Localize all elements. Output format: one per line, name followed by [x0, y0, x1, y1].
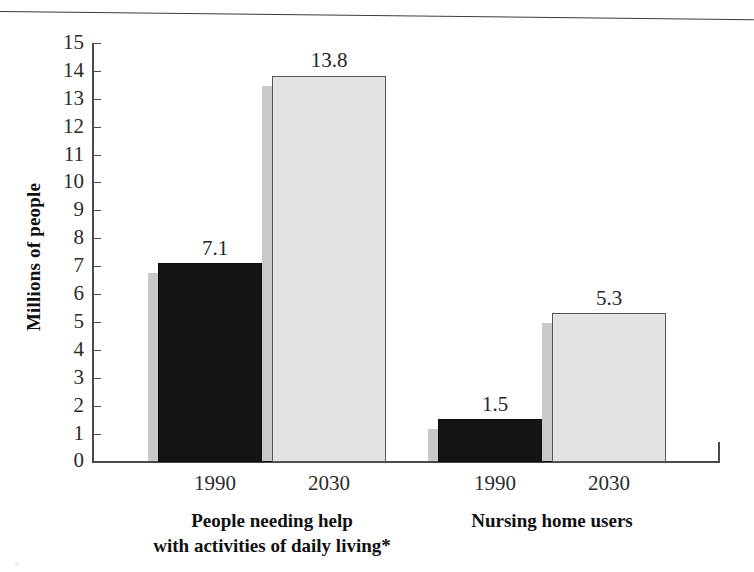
y-tick-1	[92, 434, 101, 435]
group-label-g1-line1: People needing help	[142, 508, 402, 533]
y-tick-label-10: 10	[50, 171, 84, 192]
y-tick-11	[92, 155, 101, 156]
y-tick-14	[92, 71, 101, 72]
y-tick-13	[92, 99, 101, 100]
bar-value-g1-1990: 7.1	[155, 238, 275, 259]
y-tick-label-6: 6	[50, 283, 84, 304]
bar-chart-plot-area: Millions of people 15 14 13 12 11 10 9 8…	[0, 0, 754, 572]
figure-root: Millions of people 15 14 13 12 11 10 9 8…	[0, 0, 754, 572]
y-tick-label-7: 7	[50, 255, 84, 276]
y-tick-6	[92, 294, 101, 295]
x-category-label-g2-1990: 1990	[435, 473, 555, 494]
y-tick-2	[92, 406, 101, 407]
group-label-g1-line2: with activities of daily living*	[142, 533, 402, 558]
group-label-g2-line1: Nursing home users	[432, 508, 672, 533]
x-category-label-g2-2030: 2030	[549, 473, 669, 494]
y-tick-label-11: 11	[50, 144, 84, 165]
y-tick-label-13: 13	[50, 88, 84, 109]
bar-g2-2030-light[interactable]	[552, 313, 666, 462]
y-tick-label-0: 0	[50, 450, 84, 471]
y-tick-4	[92, 350, 101, 351]
y-tick-label-12: 12	[50, 116, 84, 137]
y-axis-title: Millions of people	[23, 157, 45, 357]
x-category-label-g1-1990: 1990	[155, 473, 275, 494]
y-tick-label-9: 9	[50, 199, 84, 220]
y-tick-5	[92, 322, 101, 323]
y-tick-8	[92, 238, 101, 239]
y-tick-label-1: 1	[50, 423, 84, 444]
y-tick-label-4: 4	[50, 339, 84, 360]
bar-value-g1-2030: 13.8	[269, 50, 389, 71]
y-tick-label-14: 14	[50, 60, 84, 81]
y-tick-15	[92, 43, 101, 44]
y-tick-label-3: 3	[50, 367, 84, 388]
bar-g2-1990-dark[interactable]	[438, 419, 552, 462]
y-tick-label-15: 15	[50, 32, 84, 53]
y-tick-label-2: 2	[50, 395, 84, 416]
y-tick-12	[92, 127, 101, 128]
bar-g1-2030-light[interactable]	[272, 76, 386, 462]
y-tick-7	[92, 266, 101, 267]
y-tick-label-5: 5	[50, 311, 84, 332]
bar-g1-1990-dark[interactable]	[158, 263, 272, 462]
x-axis-right-end-tick	[718, 442, 720, 462]
bar-value-g2-2030: 5.3	[549, 288, 669, 309]
footnote-cropped-text: *	[14, 560, 434, 572]
y-tick-label-8: 8	[50, 227, 84, 248]
bar-value-g2-1990: 1.5	[435, 394, 555, 415]
y-axis-line	[92, 43, 94, 463]
x-category-label-g1-2030: 2030	[269, 473, 389, 494]
y-tick-3	[92, 378, 101, 379]
y-tick-9	[92, 210, 101, 211]
y-tick-10	[92, 182, 101, 183]
